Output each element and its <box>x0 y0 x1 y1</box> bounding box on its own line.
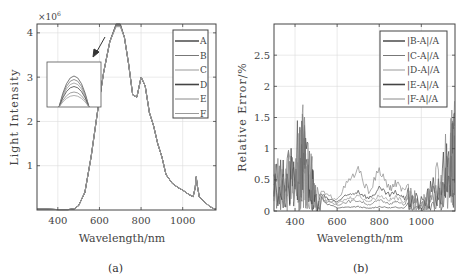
chart-panel-b: 4006008001000 00.511.522.5 Relative Erro… <box>233 0 466 280</box>
y-multiplier: ×106 <box>38 10 61 22</box>
y-tick-label: 3 <box>27 72 33 83</box>
y-tick-label: 0.5 <box>254 174 270 185</box>
x-tick-label: 1000 <box>409 216 434 227</box>
chart-panel-a: 4006008001000 1234 ×106 Light Intensity … <box>0 0 233 280</box>
y-tick-label: 1 <box>264 143 270 154</box>
y-tick-label: 1.5 <box>254 112 270 123</box>
panel-a-caption: (a) <box>108 262 123 275</box>
legend-label: |D-A|/A <box>407 65 440 76</box>
x-tick-label: 600 <box>328 216 347 227</box>
y-tick-label: 2.5 <box>254 50 270 61</box>
y-tick-label: 4 <box>27 27 33 38</box>
y-tick-label: 2 <box>27 116 33 127</box>
legend-label: F <box>200 109 206 119</box>
legend-label: E <box>200 94 207 104</box>
legend: ABCDEF <box>173 30 208 119</box>
legend-label: D <box>200 80 207 90</box>
y-tick-label: 0 <box>264 206 270 217</box>
y-tick-labels: 00.511.522.5 <box>254 50 270 217</box>
x-tick-label: 800 <box>132 215 151 226</box>
legend-label: |F-A|/A <box>407 94 438 105</box>
x-tick-labels: 4006008001000 <box>48 215 195 226</box>
y-axis-label: Light Intensity <box>8 68 21 165</box>
panel-b-caption: (b) <box>353 262 369 275</box>
y-tick-label: 1 <box>27 160 33 171</box>
peak-inset <box>47 62 101 107</box>
x-axis-label: Wavelength/nm <box>79 232 166 245</box>
legend-label: A <box>199 36 207 46</box>
legend: |B-A|/A|C-A|/A|D-A|/A|E-A|/A|F-A|/A <box>380 31 447 107</box>
x-tick-labels: 4006008001000 <box>285 216 434 227</box>
arrow-icon <box>93 37 105 57</box>
legend-label: |C-A|/A <box>407 51 440 62</box>
y-axis-label: Relative Error/% <box>236 62 249 172</box>
x-axis-label: Wavelength/nm <box>317 232 404 245</box>
x-tick-label: 1000 <box>170 215 195 226</box>
y-tick-labels: 1234 <box>27 27 33 171</box>
legend-label: |B-A|/A <box>407 36 439 47</box>
legend-label: |E-A|/A <box>407 80 439 91</box>
y-tick-label: 2 <box>264 81 270 92</box>
legend-label: B <box>200 51 207 61</box>
x-tick-label: 800 <box>370 216 389 227</box>
legend-label: C <box>200 65 207 75</box>
x-tick-label: 600 <box>90 215 109 226</box>
x-tick-label: 400 <box>48 215 67 226</box>
x-tick-label: 400 <box>285 216 304 227</box>
